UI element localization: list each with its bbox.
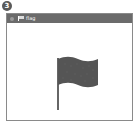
window-content — [7, 23, 132, 120]
window-title: flag — [26, 14, 35, 23]
app-window: flag — [6, 13, 133, 121]
flag-app-icon — [18, 16, 24, 21]
window-control-icon[interactable] — [10, 17, 14, 21]
flag-icon — [57, 56, 101, 116]
screenshot-root: 3 flag — [0, 0, 136, 125]
window-titlebar[interactable]: flag — [7, 14, 132, 23]
step-number-badge: 3 — [2, 1, 12, 11]
